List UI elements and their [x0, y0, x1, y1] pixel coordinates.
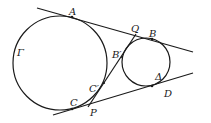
circle-gamma: [13, 16, 107, 110]
label-gamma: Γ: [16, 47, 25, 58]
label-a: A: [68, 6, 76, 17]
label-b-prime: B′: [111, 49, 122, 60]
label-q: Q: [131, 23, 139, 34]
point-c-prime: [103, 82, 105, 84]
point-d: [151, 85, 154, 88]
internal-tangent-pq: [88, 34, 136, 107]
label-d: D: [163, 88, 172, 99]
geometry-diagram: A B Q B′ C′ C P D Γ Δ: [0, 0, 211, 123]
point-c: [71, 108, 74, 111]
label-c-prime: C′: [89, 83, 100, 94]
label-b: B: [148, 28, 156, 39]
label-delta: Δ: [154, 71, 162, 82]
upper-tangent-line: [37, 8, 193, 52]
label-c: C: [70, 97, 78, 108]
label-p: P: [89, 107, 97, 118]
